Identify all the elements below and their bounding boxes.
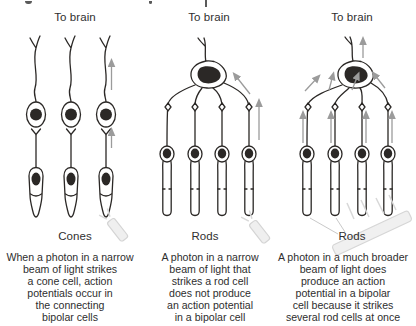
nucleus bbox=[65, 109, 77, 121]
synapse bbox=[32, 129, 41, 135]
broad-light-beam-icon bbox=[332, 195, 413, 256]
rods-converging-pathway-diagram bbox=[276, 28, 416, 250]
cropped-text-fragment bbox=[205, 0, 207, 7]
axon bbox=[65, 36, 75, 102]
caption-cones: When a photon in a narrow beam of light … bbox=[0, 251, 140, 323]
nucleus bbox=[303, 149, 311, 159]
rods-single-pathway-diagram bbox=[140, 28, 280, 250]
axon bbox=[30, 36, 40, 102]
rod-cell bbox=[300, 146, 314, 216]
rod-cell bbox=[355, 146, 369, 216]
axon bbox=[198, 38, 206, 62]
rods-label-multi: Rods bbox=[302, 230, 402, 242]
nucleus bbox=[163, 149, 171, 159]
action-potential-arrows bbox=[303, 40, 392, 143]
nucleus bbox=[384, 149, 392, 159]
rod-cell bbox=[188, 146, 202, 216]
arrow-up-icon bbox=[329, 75, 333, 90]
rod-cells bbox=[160, 146, 256, 216]
rods-label: Rods bbox=[155, 230, 255, 242]
caption-rod-single: A photon in a narrow beam of light that … bbox=[140, 251, 280, 323]
nucleus bbox=[218, 149, 226, 159]
cropped-text-fragment bbox=[25, 1, 32, 4]
arrow-up-right-icon bbox=[305, 77, 318, 91]
rod-cell bbox=[215, 146, 229, 216]
dendrite-branches bbox=[165, 83, 252, 146]
to-brain-label-rods-multi: To brain bbox=[302, 11, 402, 23]
nucleus bbox=[191, 149, 199, 159]
cones-pathway-diagram bbox=[0, 28, 140, 250]
synapse bbox=[165, 103, 252, 111]
synapse bbox=[67, 129, 76, 135]
axon bbox=[345, 37, 353, 61]
to-brain-label-rods-single: To brain bbox=[159, 11, 259, 23]
caption-rod-broad: A photon in a much broader beam of light… bbox=[270, 251, 416, 323]
rod-cell bbox=[160, 146, 174, 216]
retina-photoreceptor-figure: To brain To brain To brain bbox=[0, 0, 416, 326]
dendrite-branches bbox=[305, 83, 391, 146]
nucleus bbox=[358, 149, 366, 159]
cones-label: Cones bbox=[25, 230, 125, 242]
nucleus bbox=[331, 149, 339, 159]
nucleus bbox=[100, 109, 112, 121]
axon bbox=[100, 36, 110, 102]
rod-cell bbox=[328, 146, 342, 216]
synapse bbox=[102, 129, 111, 135]
cropped-text-fragment bbox=[149, 1, 152, 4]
cone-pathway bbox=[27, 36, 116, 217]
synapse bbox=[305, 103, 391, 111]
nucleus bbox=[102, 173, 111, 186]
nucleus bbox=[245, 149, 253, 159]
rod-cell bbox=[242, 146, 256, 216]
to-brain-label-cones: To brain bbox=[25, 11, 125, 23]
arrow-up-left-icon bbox=[235, 75, 250, 94]
nucleus bbox=[30, 109, 42, 121]
nucleus bbox=[32, 173, 41, 186]
nucleus bbox=[67, 173, 76, 186]
